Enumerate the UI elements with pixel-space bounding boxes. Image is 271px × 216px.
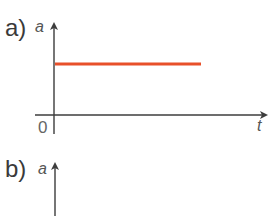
panel-a-graph bbox=[35, 24, 266, 134]
panel-b-y-axis-label: a bbox=[38, 160, 47, 178]
panel-a-origin-label: 0 bbox=[38, 118, 47, 138]
panel-b-label: b) bbox=[5, 155, 26, 183]
panel-a-x-axis-label: t bbox=[257, 117, 261, 135]
panel-a-label: a) bbox=[5, 14, 26, 42]
panel-a-y-axis-label: a bbox=[35, 18, 44, 36]
